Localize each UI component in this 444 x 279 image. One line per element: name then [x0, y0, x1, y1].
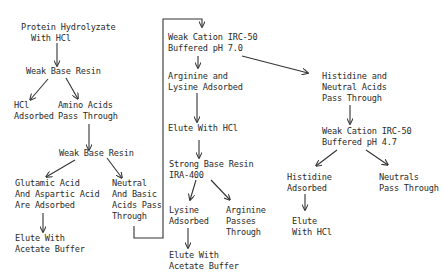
node-strong-base-resin: Strong Base Resin IRA-400 [169, 159, 254, 181]
node-elute-hcl-1: Elute With HCl [168, 123, 238, 134]
node-glutamic-aspartic: Glutamic Acid And Aspartic Acid Are Adso… [15, 178, 100, 211]
node-weak-cation-ph47: Weak Cation IRC-50 Buffered pH 4.7 [322, 126, 412, 148]
edge-strongbase-to-lysine [190, 180, 196, 200]
edge-resin1-to-aminoacids [66, 78, 78, 99]
node-elute-acetate-1: Elute With Acetate Buffer [15, 233, 85, 255]
node-neutral-basic: Neutral And Basic Acids Pass Through [112, 178, 162, 222]
node-elute-acetate-2: Elute With Acetate Buffer [169, 250, 239, 272]
edge-weakcation47-to-neutrals [366, 150, 388, 165]
edge-weakcation70-to-histidine [242, 56, 308, 73]
node-lysine-adsorbed: Lysine Adsorbed [169, 205, 209, 227]
node-elute-hcl-2: Elute With HCl [292, 216, 332, 238]
node-hcl-adsorbed: HCl Adsorbed [14, 100, 54, 122]
edge-resin1-to-hcl [30, 79, 48, 100]
node-arginine-lysine-adsorbed: Arginine and Lysine Adsorbed [168, 71, 243, 93]
edge-resin2-to-neutral [107, 158, 122, 178]
node-weak-base-resin-2: Weak Base Resin [59, 148, 134, 159]
edge-strongbase-to-arginine [211, 180, 230, 200]
node-amino-acids-pass: Amino Acids Pass Through [58, 100, 118, 122]
node-arginine-passes: Arginine Passes Through [226, 205, 266, 238]
node-protein-hydrolyzate: Protein Hydrolyzate With HCl [21, 22, 116, 44]
node-weak-cation-ph70: Weak Cation IRC-50 Buffered pH 7.0 [168, 32, 258, 54]
edge-weakcation47-to-histadsorbed [316, 150, 337, 166]
edge-resin2-to-glutamic [46, 160, 75, 177]
node-neutrals-pass: Neutrals Pass Through [379, 172, 439, 194]
node-weak-base-resin-1: Weak Base Resin [26, 66, 101, 77]
node-histidine-neutral-pass: Histidine and Neutral Acids Pass Through [322, 71, 387, 104]
flowchart-canvas: Protein Hydrolyzate With HCl Weak Base R… [0, 0, 444, 279]
node-histidine-adsorbed: Histidine Adsorbed [287, 172, 332, 194]
